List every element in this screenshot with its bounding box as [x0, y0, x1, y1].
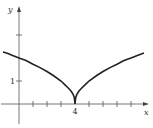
chart: y x 4 1 — [0, 0, 153, 128]
y-axis-arrow-icon — [17, 6, 21, 12]
y-axis-label: y — [7, 5, 13, 14]
curve — [3, 52, 144, 104]
x-axis-arrow-icon — [143, 102, 149, 106]
x-tick-label-4: 4 — [73, 107, 78, 116]
x-axis-label: x — [144, 108, 149, 117]
y-tick-label-1: 1 — [10, 77, 15, 86]
